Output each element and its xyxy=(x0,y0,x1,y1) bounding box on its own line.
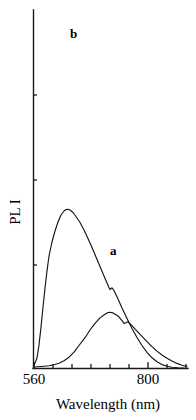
x-tick-label-800: 800 xyxy=(137,371,160,387)
curve-label-b: b xyxy=(70,26,77,41)
y-axis-title: PL I xyxy=(7,199,23,225)
series-line-a xyxy=(34,312,187,367)
series-line-b xyxy=(34,209,184,368)
chart-canvas: b a 560 800 Wavelength (nm) PL I xyxy=(0,0,196,420)
pl-spectrum-figure: b a 560 800 Wavelength (nm) PL I xyxy=(0,0,196,420)
x-tick-label-560: 560 xyxy=(23,371,46,387)
x-axis-title: Wavelength (nm) xyxy=(56,396,160,413)
curve-label-a: a xyxy=(110,243,117,258)
